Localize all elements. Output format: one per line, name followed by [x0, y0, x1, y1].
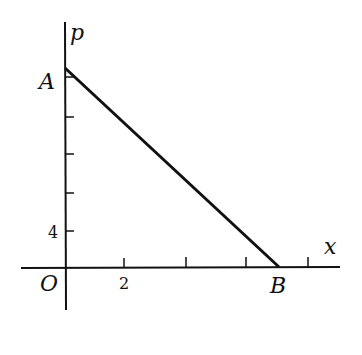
diagram-canvas: p x O A B 4 2 — [0, 0, 362, 355]
point-a-label: A — [37, 69, 55, 94]
y-tick-label-4: 4 — [48, 223, 58, 242]
x-tick-label-2: 2 — [119, 274, 129, 293]
origin-label: O — [40, 271, 58, 296]
x-axis — [21, 267, 340, 268]
p-axis-label: p — [70, 20, 84, 45]
point-b-label: B — [269, 273, 286, 298]
x-axis-label: x — [324, 234, 337, 259]
p-axis — [65, 22, 66, 310]
line-ab — [65, 68, 279, 267]
